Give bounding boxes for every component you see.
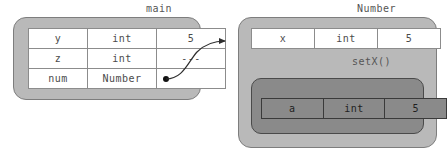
table-row: num Number bbox=[29, 69, 226, 89]
setx-local-table: a int 5 bbox=[261, 98, 447, 119]
reference-pointer-dot bbox=[163, 76, 169, 82]
cell-variable-value: 5 bbox=[378, 29, 441, 49]
cell-variable-name: z bbox=[29, 49, 88, 69]
main-frame-label: main bbox=[146, 3, 172, 14]
setx-method-label: setX() bbox=[352, 56, 391, 67]
number-object-label: Number bbox=[357, 3, 396, 14]
diagram-canvas: main y int 5 z int --- num Number Number… bbox=[0, 0, 447, 154]
cell-variable-name: a bbox=[262, 99, 324, 119]
cell-variable-type: int bbox=[315, 29, 378, 49]
cell-variable-type: Number bbox=[88, 69, 157, 89]
cell-variable-name: num bbox=[29, 69, 88, 89]
table-row: x int 5 bbox=[252, 29, 441, 49]
table-row: a int 5 bbox=[262, 99, 447, 119]
table-row: z int --- bbox=[29, 49, 226, 69]
cell-variable-value: 5 bbox=[157, 29, 226, 49]
number-field-table: x int 5 bbox=[251, 28, 441, 49]
main-variable-table: y int 5 z int --- num Number bbox=[28, 28, 226, 89]
cell-variable-name: x bbox=[252, 29, 315, 49]
cell-variable-type: int bbox=[88, 29, 157, 49]
cell-variable-type: int bbox=[88, 49, 157, 69]
cell-variable-type: int bbox=[323, 99, 385, 119]
cell-variable-value: --- bbox=[157, 49, 226, 69]
table-row: y int 5 bbox=[29, 29, 226, 49]
cell-variable-name: y bbox=[29, 29, 88, 49]
cell-variable-value: 5 bbox=[385, 99, 447, 119]
